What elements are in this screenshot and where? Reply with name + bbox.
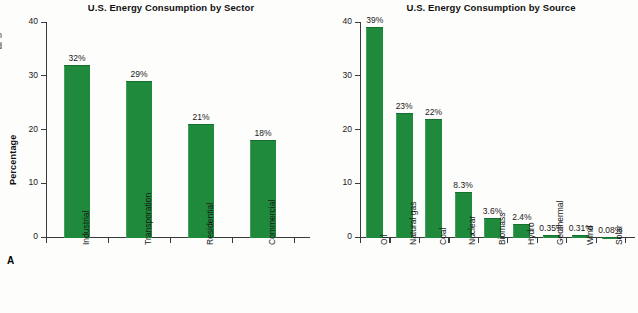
y-axis-tick-label: 30 [326,70,352,80]
chart-title-a: U.S. Energy Consumption by Sector [0,2,320,13]
chart-title-b: U.S. Energy Consumption by Source [318,2,638,13]
x-axis-category-label: Industrial [81,211,91,246]
y-axis-tick [41,75,46,76]
x-axis-category-label: Natural gas [408,202,418,245]
x-axis-tick [170,238,171,243]
y-axis-tick [355,75,360,76]
x-axis-tick [507,238,508,243]
x-axis-category-label: Nuclear [467,216,477,245]
y-axis-tick [41,129,46,130]
x-axis-tick [419,238,420,243]
x-axis-tick [108,238,109,243]
bar-value-label: 0.08% [588,225,632,235]
y-axis-tick-label: 10 [12,177,38,187]
y-axis-line [46,22,47,238]
y-axis-tick-label: 0 [12,231,38,241]
y-axis-line [360,22,361,238]
y-axis-tick [355,183,360,184]
y-axis-tick-label: 0 [326,231,352,241]
y-axis-tick-label: 40 [12,16,38,26]
y-axis-tick-label: 30 [12,70,38,80]
x-axis-tick [360,238,361,243]
x-axis-tick [294,238,295,243]
bar-value-label: 8.3% [441,180,485,190]
bar-value-label: 2.4% [500,212,544,222]
bar-value-label: 22% [412,107,456,117]
x-axis-tick [625,238,626,243]
x-axis-category-label: Residential [205,203,215,245]
x-axis-tick [537,238,538,243]
x-axis-tick [478,238,479,243]
x-axis-tick [596,238,597,243]
bar-value-label: 21% [179,112,223,122]
y-axis-tick [41,22,46,23]
x-axis-category-label: Transporation [143,193,153,245]
figure-root: n d U.S. Energy Consumption by Sector Pe… [0,0,638,313]
y-axis-tick [355,129,360,130]
panel-label-a: A [7,255,14,266]
y-axis-tick-label: 40 [326,16,352,26]
bar-value-label: 39% [353,15,397,25]
bar [366,27,383,238]
bar-value-label: 32% [55,53,99,63]
y-axis-tick-label: 10 [326,177,352,187]
chart-panel-b: U.S. Energy Consumption by Source Percen… [318,0,638,313]
x-axis-category-label: Coal [438,228,448,245]
x-axis-category-label: Oil [379,235,389,245]
plot-area-b: 01020304039%Oil23%Natural gas22%Coal8.3%… [360,22,625,237]
x-axis-tick [566,238,567,243]
x-axis-category-label: Solar [614,225,624,245]
x-axis-tick [448,238,449,243]
x-axis-tick [46,238,47,243]
chart-panel-a: U.S. Energy Consumption by Sector Percen… [0,0,320,313]
y-axis-tick-label: 20 [326,124,352,134]
bar-value-label: 18% [241,128,285,138]
y-axis-tick [41,183,46,184]
y-axis-tick-label: 20 [12,124,38,134]
bar-value-label: 29% [117,69,161,79]
x-axis-category-label: Commercial [267,200,277,245]
x-axis-tick [232,238,233,243]
x-axis-tick [389,238,390,243]
bar [425,119,442,238]
plot-area-a: 01020304032%Industrial29%Transporation21… [46,22,294,237]
